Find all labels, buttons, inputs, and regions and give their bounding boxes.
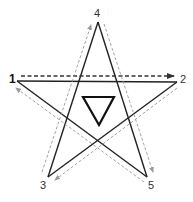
vertex-label-5: 5 — [148, 180, 154, 191]
vertex-label-4: 4 — [94, 8, 100, 19]
guide-arrow-5-to-1 — [16, 88, 144, 182]
pentagram-diagram — [0, 0, 193, 202]
vertex-label-3: 3 — [40, 180, 46, 191]
star-edge-1-2 — [17, 81, 177, 82]
star-lines — [17, 22, 177, 177]
guide-arrows — [16, 24, 177, 182]
vertex-label-2: 2 — [180, 74, 186, 85]
guide-arrow-2-to-3 — [55, 88, 177, 180]
vertex-label-1: 1 — [9, 73, 16, 85]
star-edge-3-4 — [48, 22, 98, 177]
inverted-triangle-icon — [83, 97, 114, 125]
